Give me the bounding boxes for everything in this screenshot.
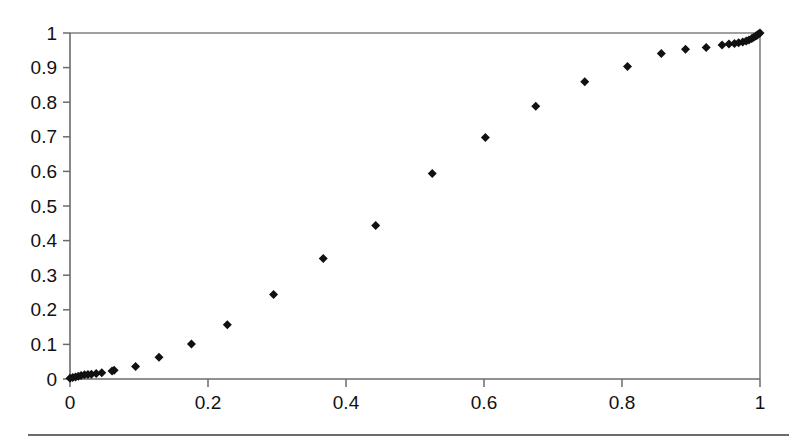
x-axis: 00.20.40.60.81 bbox=[65, 379, 766, 413]
chart-figure: 00.10.20.30.40.50.60.70.80.91 00.20.40.6… bbox=[0, 0, 789, 442]
y-tick-label: 0.1 bbox=[31, 334, 57, 355]
data-point-marker bbox=[187, 340, 196, 349]
y-tick-label: 0.8 bbox=[31, 92, 57, 113]
data-point-marker bbox=[223, 320, 232, 329]
data-point-marker bbox=[531, 102, 540, 111]
data-point-marker bbox=[319, 254, 328, 263]
y-tick-label: 0.5 bbox=[31, 196, 57, 217]
x-tick-label: 1 bbox=[755, 392, 766, 413]
y-tick-label: 0.6 bbox=[31, 161, 57, 182]
data-point-marker bbox=[97, 368, 106, 377]
x-tick-label: 0.8 bbox=[609, 392, 635, 413]
scatter-plot: 00.10.20.30.40.50.60.70.80.91 00.20.40.6… bbox=[0, 0, 789, 442]
data-point-marker bbox=[681, 45, 690, 54]
data-point-marker bbox=[269, 290, 278, 299]
data-point-marker bbox=[623, 62, 632, 71]
plot-frame bbox=[70, 33, 760, 379]
y-tick-label: 0.7 bbox=[31, 126, 57, 147]
y-tick-label: 0.4 bbox=[31, 230, 58, 251]
data-point-marker bbox=[718, 41, 727, 50]
data-point-marker bbox=[428, 169, 437, 178]
data-point-marker bbox=[702, 43, 711, 52]
data-point-marker bbox=[371, 221, 380, 230]
x-tick-label: 0.6 bbox=[471, 392, 497, 413]
y-tick-label: 1 bbox=[46, 23, 57, 44]
y-tick-label: 0.9 bbox=[31, 57, 57, 78]
x-tick-label: 0 bbox=[65, 392, 76, 413]
data-series-1 bbox=[66, 29, 765, 383]
data-point-marker bbox=[580, 77, 589, 86]
y-tick-label: 0.3 bbox=[31, 265, 57, 286]
data-point-marker bbox=[481, 133, 490, 142]
y-axis: 00.10.20.30.40.50.60.70.80.91 bbox=[31, 23, 70, 390]
data-point-marker bbox=[657, 49, 666, 58]
data-point-marker bbox=[155, 353, 164, 362]
y-tick-label: 0 bbox=[46, 369, 57, 390]
y-tick-label: 0.2 bbox=[31, 299, 57, 320]
data-point-marker bbox=[131, 362, 140, 371]
x-tick-label: 0.2 bbox=[195, 392, 221, 413]
x-tick-label: 0.4 bbox=[333, 392, 360, 413]
